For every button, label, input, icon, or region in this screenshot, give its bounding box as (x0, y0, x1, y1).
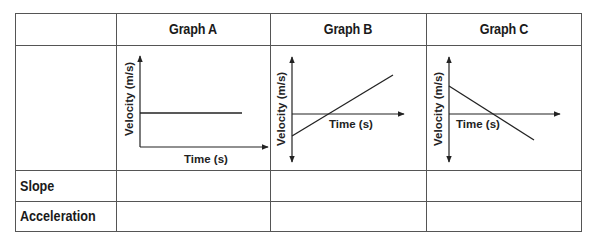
graph-c: Velocity (m/s) Time (s) (432, 57, 560, 162)
y-axis-label: Velocity (m/s) (275, 72, 287, 146)
x-axis-label: Time (s) (184, 153, 228, 165)
graph-a: Velocity (m/s) Time (s) (123, 56, 268, 165)
graphs-canvas: Velocity (m/s) Time (s) Velocity (m/s) T… (0, 0, 594, 244)
velocity-line (449, 86, 534, 140)
graph-b: Velocity (m/s) Time (s) (275, 57, 404, 162)
y-axis-label: Velocity (m/s) (123, 62, 135, 136)
x-axis-label: Time (s) (456, 118, 500, 130)
x-axis-label: Time (s) (329, 118, 373, 130)
y-axis-label: Velocity (m/s) (432, 72, 444, 146)
